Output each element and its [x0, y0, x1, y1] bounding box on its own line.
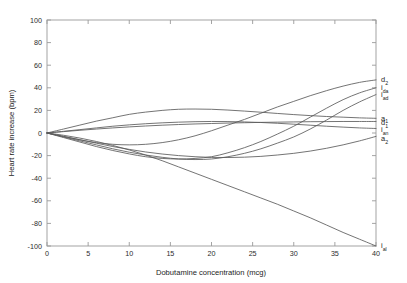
series-label-i_al: ial: [381, 241, 387, 252]
y-tick-label: 100: [30, 16, 42, 25]
series-line-i_al: [47, 133, 376, 246]
series-line-i_ad: [47, 95, 376, 160]
x-tick-label: 20: [208, 249, 216, 258]
x-tick-label: 10: [125, 249, 133, 258]
x-tick-label: 35: [331, 249, 339, 258]
x-axis-ticks: 0510152025303540: [45, 20, 380, 258]
y-tick-label: 80: [34, 38, 42, 47]
y-tick-label: 20: [34, 106, 42, 115]
plot-border: [47, 20, 376, 246]
y-tick-label: -80: [32, 219, 42, 228]
x-tick-label: 30: [290, 249, 298, 258]
data-series-group: [47, 80, 376, 246]
y-axis-title: Heart rate increase (bpm): [7, 89, 16, 176]
y-axis-ticks: -100-80-60-40-20020406080100: [28, 16, 376, 251]
series-line-d_1: [47, 121, 376, 133]
y-tick-label: -60: [32, 196, 42, 205]
x-tick-label: 5: [86, 249, 90, 258]
x-tick-label: 15: [166, 249, 174, 258]
x-tick-label: 40: [372, 249, 380, 258]
x-tick-label: 25: [249, 249, 257, 258]
y-tick-label: -40: [32, 174, 42, 183]
series-endpoint-labels: d2idaiada1d1iana2ial: [381, 75, 389, 252]
y-tick-label: 40: [34, 83, 42, 92]
x-tick-label: 0: [45, 249, 49, 258]
y-tick-label: 60: [34, 61, 42, 70]
figure-container: -100-80-60-40-20020406080100 05101520253…: [0, 0, 407, 283]
axes-frame: [47, 20, 376, 246]
y-tick-label: 0: [38, 129, 42, 138]
y-tick-label: -100: [28, 242, 42, 251]
x-axis-title: Dobutamine concentration (mcg): [156, 268, 267, 277]
y-tick-label: -20: [32, 151, 42, 160]
line-chart: -100-80-60-40-20020406080100 05101520253…: [0, 0, 407, 283]
series-line-d_2: [47, 80, 376, 145]
